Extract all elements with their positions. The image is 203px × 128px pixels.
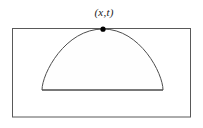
figure-container: (x,t) xyxy=(0,0,203,128)
figure-canvas xyxy=(0,0,203,128)
apex-point xyxy=(100,27,105,32)
